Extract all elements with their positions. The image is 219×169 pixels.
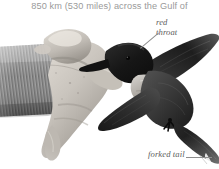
leader-line-forked-tail xyxy=(186,157,212,158)
photo-svg xyxy=(0,13,219,169)
annotation-red-throat: red throat xyxy=(156,18,177,37)
annotation-forked-tail: forked tail xyxy=(148,150,185,160)
annotation-red-throat-line2: throat xyxy=(156,28,177,38)
hummingbird-photograph xyxy=(0,13,219,169)
annotation-forked-tail-line1: forked tail xyxy=(148,150,185,160)
figure-caption: 850 km (530 miles) across the Gulf of xyxy=(0,0,219,12)
figure-container: 850 km (530 miles) across the Gulf of xyxy=(0,0,219,169)
